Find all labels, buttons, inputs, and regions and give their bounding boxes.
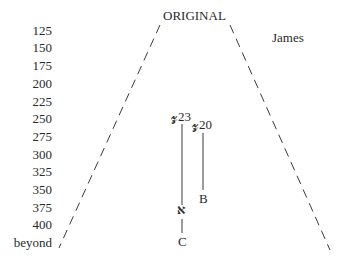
- manuscript-label-c: C: [178, 235, 187, 249]
- manuscript-label-b: B: [199, 192, 208, 206]
- manuscript-label-p20: 𝔃20: [192, 118, 212, 132]
- left-dashed-boundary-line: [59, 25, 160, 248]
- original-label: ORIGINAL: [163, 9, 226, 23]
- manuscript-label-sinaiticus: א: [177, 203, 185, 217]
- textual-transmission-diagram: 125 150 175 200 225 250 275 300 325 350 …: [0, 0, 345, 263]
- book-label-james: James: [272, 31, 304, 45]
- right-dashed-boundary-line: [230, 25, 330, 250]
- manuscript-label-p23: 𝔃23: [171, 110, 191, 124]
